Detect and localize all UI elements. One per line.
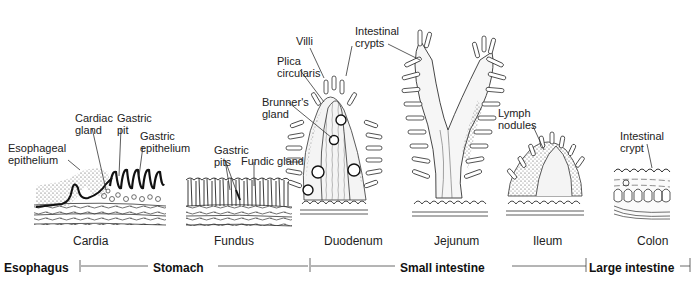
section-duodenum: Duodenum xyxy=(324,234,383,248)
label-lymph-nodules: Lymph nodules xyxy=(498,107,537,131)
label-esophageal-epithelium: Esophageal epithelium xyxy=(8,142,66,166)
section-colon: Colon xyxy=(637,234,668,248)
jejunum-illustration xyxy=(402,30,506,216)
cardia-illustration xyxy=(34,168,166,225)
label-fundic-gland: Fundic gland xyxy=(241,155,304,167)
section-jejunum: Jejunum xyxy=(434,234,479,248)
label-gastric-epithelium: Gastric epithelium xyxy=(140,130,190,154)
region-stomach: Stomach xyxy=(153,261,204,275)
label-intestinal-crypt: Intestinal crypt xyxy=(620,130,664,154)
region-esophagus: Esophagus xyxy=(4,261,69,275)
section-fundus: Fundus xyxy=(214,234,254,248)
ileum-illustration xyxy=(506,132,585,215)
region-small-intestine: Small intestine xyxy=(400,261,485,275)
section-ileum: Ileum xyxy=(533,234,562,248)
label-cardiac-gland: Cardiac gland xyxy=(75,112,113,136)
label-brunners-gland: Brunner's gland xyxy=(262,96,309,120)
label-villi: Villi xyxy=(296,35,313,47)
label-intestinal-crypts: Intestinal crypts xyxy=(355,25,399,49)
label-plica-circularis: Plica circularis xyxy=(277,55,320,79)
section-cardia: Cardia xyxy=(73,234,108,248)
fundus-illustration xyxy=(186,178,292,226)
colon-illustration xyxy=(614,169,670,219)
region-large-intestine: Large intestine xyxy=(589,261,674,275)
